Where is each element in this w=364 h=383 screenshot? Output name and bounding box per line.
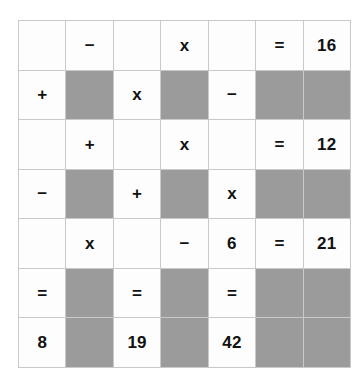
- operator-cell-text: =: [274, 235, 284, 252]
- blocked-cell: [66, 170, 112, 219]
- blank-input-cell[interactable]: [114, 120, 160, 169]
- blocked-cell: [304, 269, 350, 318]
- value-cell-text: 19: [127, 334, 146, 351]
- arithmetic-puzzle-grid: −x=16+x−+x=12−+xx−6=21===81942: [18, 20, 351, 368]
- operator-cell-text: −: [85, 36, 95, 53]
- blocked-cell: [161, 170, 207, 219]
- value-cell: 19: [114, 318, 160, 367]
- operator-cell-text: x: [227, 185, 236, 202]
- blocked-cell: [256, 71, 302, 120]
- operator-cell: x: [161, 120, 207, 169]
- value-cell-text: 6: [227, 235, 237, 252]
- operator-cell: −: [161, 219, 207, 268]
- blocked-cell: [66, 71, 112, 120]
- value-cell: 8: [19, 318, 65, 367]
- blank-input-cell[interactable]: [19, 21, 65, 70]
- operator-cell: =: [114, 269, 160, 318]
- operator-cell-text: +: [85, 135, 95, 152]
- blocked-cell: [256, 170, 302, 219]
- blocked-cell: [304, 318, 350, 367]
- blocked-cell: [256, 318, 302, 367]
- blank-input-cell[interactable]: [19, 219, 65, 268]
- blocked-cell: [161, 318, 207, 367]
- operator-cell-text: =: [274, 36, 284, 53]
- value-cell: 16: [304, 21, 350, 70]
- value-cell: 6: [209, 219, 255, 268]
- operator-cell: x: [161, 21, 207, 70]
- operator-cell: =: [256, 219, 302, 268]
- value-cell: 12: [304, 120, 350, 169]
- operator-cell-text: =: [132, 284, 142, 301]
- operator-cell-text: x: [132, 86, 141, 103]
- blocked-cell: [161, 269, 207, 318]
- operator-cell-text: =: [227, 284, 237, 301]
- puzzle-container: −x=16+x−+x=12−+xx−6=21===81942: [18, 20, 351, 368]
- value-cell-text: 8: [37, 334, 47, 351]
- blank-input-cell[interactable]: [114, 219, 160, 268]
- operator-cell: x: [114, 71, 160, 120]
- operator-cell: x: [209, 170, 255, 219]
- operator-cell: +: [114, 170, 160, 219]
- operator-cell: +: [66, 120, 112, 169]
- operator-cell: +: [19, 71, 65, 120]
- blank-input-cell[interactable]: [209, 120, 255, 169]
- value-cell: 21: [304, 219, 350, 268]
- value-cell-text: 12: [317, 135, 336, 152]
- blocked-cell: [256, 269, 302, 318]
- operator-cell-text: x: [180, 135, 189, 152]
- operator-cell-text: +: [132, 185, 142, 202]
- blocked-cell: [304, 71, 350, 120]
- value-cell-text: 16: [317, 36, 336, 53]
- operator-cell: −: [19, 170, 65, 219]
- operator-cell: x: [66, 219, 112, 268]
- blank-input-cell[interactable]: [19, 120, 65, 169]
- blank-input-cell[interactable]: [209, 21, 255, 70]
- operator-cell: =: [209, 269, 255, 318]
- blocked-cell: [66, 318, 112, 367]
- blocked-cell: [161, 71, 207, 120]
- operator-cell: =: [19, 269, 65, 318]
- blank-input-cell[interactable]: [114, 21, 160, 70]
- operator-cell-text: =: [37, 284, 47, 301]
- operator-cell-text: =: [274, 135, 284, 152]
- operator-cell-text: −: [37, 185, 47, 202]
- value-cell-text: 42: [222, 334, 241, 351]
- value-cell-text: 21: [317, 235, 336, 252]
- operator-cell: −: [66, 21, 112, 70]
- value-cell: 42: [209, 318, 255, 367]
- operator-cell-text: −: [227, 86, 237, 103]
- operator-cell-text: x: [85, 235, 94, 252]
- operator-cell: =: [256, 21, 302, 70]
- blocked-cell: [304, 170, 350, 219]
- operator-cell: =: [256, 120, 302, 169]
- operator-cell-text: −: [180, 235, 190, 252]
- operator-cell-text: x: [180, 36, 189, 53]
- operator-cell-text: +: [37, 86, 47, 103]
- blocked-cell: [66, 269, 112, 318]
- operator-cell: −: [209, 71, 255, 120]
